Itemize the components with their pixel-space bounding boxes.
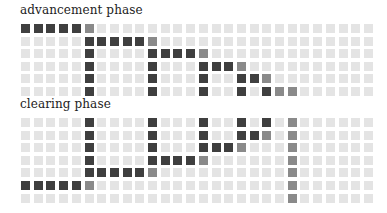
grid-cell-dark — [46, 181, 55, 190]
grid-cell-empty — [224, 87, 233, 96]
grid-cell-dark — [212, 62, 221, 71]
grid-cell-empty — [275, 24, 284, 33]
grid-cell-empty — [364, 143, 373, 152]
grid-cell-empty — [250, 181, 259, 190]
grid-cell-empty — [364, 156, 373, 165]
grid-cell-empty — [173, 181, 182, 190]
grid-cell-dark — [72, 24, 81, 33]
grid-cell-empty — [351, 131, 360, 140]
grid-cell-empty — [212, 194, 221, 203]
grid-cell-empty — [339, 74, 348, 83]
grid-cell-empty — [135, 118, 144, 127]
grid-cell-dark — [85, 87, 94, 96]
grid-cell-empty — [135, 131, 144, 140]
grid-cell-dark — [85, 62, 94, 71]
grid-cell-dark — [199, 131, 208, 140]
grid-cell-empty — [85, 194, 94, 203]
grid-cell-empty — [237, 156, 246, 165]
grid-cell-empty — [364, 168, 373, 177]
grid-cell-empty — [250, 156, 259, 165]
grid-cell-empty — [34, 131, 43, 140]
grid-cell-empty — [300, 143, 309, 152]
grid-cell-empty — [237, 24, 246, 33]
grid-cell-empty — [186, 37, 195, 46]
grid-cell-dark — [148, 156, 157, 165]
grid-cell-empty — [123, 118, 132, 127]
grid-cell-empty — [250, 62, 259, 71]
grid-cell-empty — [275, 156, 284, 165]
grid-cell-empty — [34, 143, 43, 152]
grid-cell-empty — [161, 87, 170, 96]
grid-cell-empty — [46, 118, 55, 127]
grid-cell-empty — [364, 24, 373, 33]
grid-cell-empty — [339, 24, 348, 33]
grid-cell-dark — [262, 118, 271, 127]
grid-cell-empty — [72, 62, 81, 71]
grid-cell-empty — [288, 37, 297, 46]
grid-cell-empty — [288, 74, 297, 83]
grid-cell-empty — [110, 49, 119, 58]
grid-cell-empty — [199, 37, 208, 46]
grid-cell-empty — [339, 156, 348, 165]
grid-cell-empty — [34, 194, 43, 203]
grid-cell-medium — [288, 87, 297, 96]
grid-cell-empty — [351, 156, 360, 165]
grid-cell-dark — [59, 24, 68, 33]
grid-cell-dark — [85, 118, 94, 127]
grid-cell-empty — [275, 168, 284, 177]
grid-cell-dark — [148, 74, 157, 83]
grid-cell-empty — [262, 49, 271, 58]
grid-cell-empty — [97, 24, 106, 33]
grid-cell-dark — [186, 49, 195, 58]
grid-cell-empty — [351, 62, 360, 71]
grid-cell-empty — [275, 181, 284, 190]
grid-cell-empty — [173, 87, 182, 96]
grid-cell-empty — [212, 87, 221, 96]
grid-cell-medium — [237, 143, 246, 152]
grid-cell-empty — [59, 49, 68, 58]
grid-cell-empty — [364, 118, 373, 127]
grid-cell-empty — [173, 194, 182, 203]
grid-cell-empty — [339, 194, 348, 203]
grid-cell-empty — [339, 181, 348, 190]
grid-cell-empty — [288, 49, 297, 58]
grid-cell-empty — [46, 37, 55, 46]
grid-cell-empty — [97, 49, 106, 58]
grid-cell-medium — [199, 156, 208, 165]
grid-cell-empty — [21, 118, 30, 127]
grid-cell-dark — [161, 49, 170, 58]
grid-cell-empty — [59, 87, 68, 96]
grid-cell-empty — [364, 87, 373, 96]
grid-cell-dark — [173, 49, 182, 58]
grid-cell-empty — [313, 49, 322, 58]
grid-cell-empty — [110, 118, 119, 127]
grid-cell-empty — [262, 168, 271, 177]
advancement-phase-label: advancement phase — [20, 3, 143, 17]
grid-cell-empty — [300, 49, 309, 58]
grid-cell-empty — [339, 118, 348, 127]
grid-cell-empty — [300, 131, 309, 140]
grid-cell-empty — [110, 24, 119, 33]
grid-cell-dark — [262, 87, 271, 96]
grid-cell-empty — [224, 131, 233, 140]
grid-cell-empty — [339, 143, 348, 152]
grid-cell-empty — [224, 49, 233, 58]
grid-cell-dark — [199, 87, 208, 96]
grid-cell-empty — [173, 168, 182, 177]
grid-cell-empty — [288, 62, 297, 71]
grid-cell-empty — [148, 24, 157, 33]
grid-cell-dark — [212, 143, 221, 152]
grid-cell-empty — [313, 181, 322, 190]
grid-cell-empty — [173, 143, 182, 152]
grid-cell-dark — [148, 118, 157, 127]
grid-cell-empty — [46, 87, 55, 96]
grid-cell-empty — [351, 24, 360, 33]
grid-cell-empty — [237, 168, 246, 177]
grid-cell-empty — [46, 131, 55, 140]
grid-cell-empty — [300, 168, 309, 177]
grid-cell-empty — [339, 37, 348, 46]
grid-cell-empty — [351, 37, 360, 46]
grid-cell-empty — [250, 194, 259, 203]
grid-cell-empty — [237, 49, 246, 58]
grid-cell-empty — [161, 168, 170, 177]
